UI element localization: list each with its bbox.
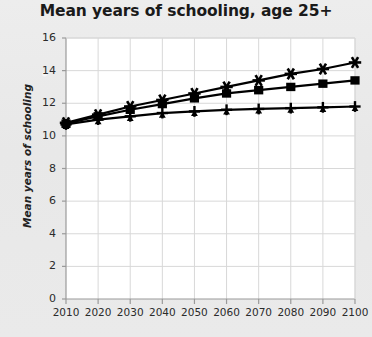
y-axis-tick-label: 10: [30, 129, 56, 142]
x-axis-tick-label: 2100: [335, 306, 372, 318]
data-point-marker-square: [350, 76, 359, 84]
chart-plot-area: 1614121086420201020202030204020502060207…: [0, 0, 372, 337]
y-axis-tick-label: 4: [30, 227, 56, 240]
data-point-marker-star-core: [224, 85, 229, 90]
y-axis-tick-label: 6: [30, 194, 56, 207]
y-axis-tick-label: 0: [30, 292, 56, 305]
y-axis-tick-label: 16: [30, 31, 56, 44]
data-point-marker-star-core: [288, 71, 293, 76]
data-point-marker-square: [318, 79, 327, 87]
data-point-marker-star-core: [353, 60, 358, 65]
data-point-marker-square: [286, 83, 295, 91]
data-point-marker-star-core: [256, 78, 261, 83]
y-axis-tick-label: 12: [30, 96, 56, 109]
data-point-marker-star-core: [320, 67, 325, 72]
y-axis-tick-label: 2: [30, 259, 56, 272]
data-point-marker-square: [254, 86, 263, 94]
data-point-marker-square: [190, 94, 199, 102]
y-axis-tick-label: 14: [30, 64, 56, 77]
y-axis-tick-label: 8: [30, 162, 56, 175]
data-point-marker-square: [158, 100, 167, 108]
data-point-marker-square: [222, 89, 231, 97]
